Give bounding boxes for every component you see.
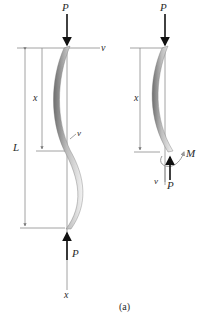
- v-axis-label: v: [101, 42, 106, 53]
- left-column-diagram: v L x v P P x: [12, 1, 106, 300]
- right-deformed-column-segment: [152, 46, 173, 152]
- buckling-column-diagram: v L x v P P x x: [0, 0, 206, 326]
- right-axial-force-label: P: [166, 179, 174, 191]
- top-load-label: P: [61, 1, 69, 13]
- figure-caption: (a): [119, 301, 130, 313]
- x-position-label: x: [32, 92, 38, 103]
- right-v-label: v: [154, 176, 158, 186]
- right-top-load-label: P: [159, 1, 167, 13]
- bottom-load-label: P: [71, 247, 79, 259]
- right-column-diagram: x M v P P: [130, 1, 196, 191]
- moment-arrow: [161, 152, 184, 166]
- moment-label: M: [185, 147, 196, 159]
- v-leader-line: [70, 134, 76, 139]
- local-v-label: v: [77, 128, 81, 138]
- right-x-label: x: [133, 92, 139, 103]
- length-label: L: [12, 141, 19, 153]
- longitudinal-axis-label: x: [63, 289, 69, 300]
